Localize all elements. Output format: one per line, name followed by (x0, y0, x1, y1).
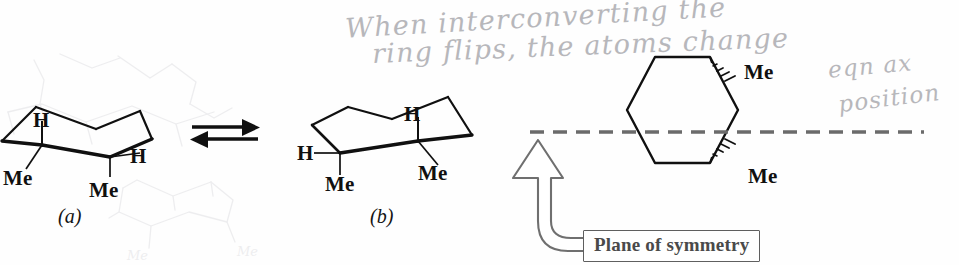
chair-a-methyl-left-label: Me (3, 168, 33, 189)
chair-b-methyl-right-label: Me (418, 163, 448, 184)
chair-b-equatorial-h-label: H (297, 143, 314, 164)
svg-text:Me: Me (236, 244, 258, 259)
pencil-sketch-chair-bottom: Me Me (115, 178, 295, 265)
chair-b-axial-h-label: H (404, 104, 421, 125)
hexagon-methyl-bottom-label: Me (748, 166, 778, 187)
chair-b-methyl-left-label: Me (325, 174, 355, 195)
chair-b-caption: (b) (370, 206, 393, 226)
handwriting-line-4: position (837, 80, 942, 116)
svg-text:Me: Me (126, 248, 148, 263)
chair-a-methyl-right-label: Me (89, 180, 119, 201)
plane-of-symmetry-label-box: Plane of symmetry (583, 230, 760, 262)
plane-of-symmetry-label-text: Plane of symmetry (594, 234, 749, 255)
chair-conformer-a (0, 95, 190, 175)
chair-a-equatorial-h-label: H (130, 146, 147, 167)
hexagon-methyl-top-label: Me (744, 62, 774, 83)
chair-conformer-b (296, 95, 486, 175)
figure-canvas: Me Me When interconverting the ring flip… (0, 0, 959, 265)
chair-a-caption: (a) (58, 206, 81, 226)
chair-a-axial-h-label: H (33, 110, 50, 131)
ring-flip-equilibrium-arrow (190, 118, 262, 150)
handwriting-line-3: eqn ax (827, 50, 913, 81)
